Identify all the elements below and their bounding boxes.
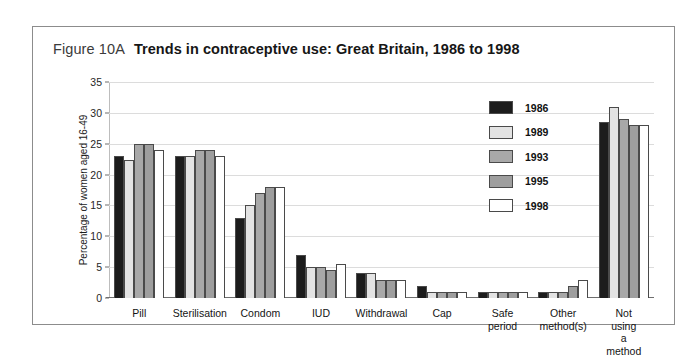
bar[interactable]	[639, 125, 649, 298]
bar[interactable]	[578, 280, 588, 299]
y-axis-tick-label: 5	[96, 261, 102, 273]
bar[interactable]	[619, 119, 629, 298]
bar[interactable]	[498, 292, 508, 298]
bar[interactable]	[548, 292, 558, 298]
bar[interactable]	[478, 292, 488, 298]
x-axis-category-label: Pill	[132, 307, 146, 320]
bar[interactable]	[195, 150, 205, 298]
legend-swatch	[489, 126, 513, 139]
chart-title: Trends in contraceptive use: Great Brita…	[134, 41, 520, 57]
y-axis-tick-label: 15	[90, 199, 102, 211]
bar[interactable]	[457, 292, 467, 298]
plot-area: 05101520253035 PillSterilisationCondomIU…	[109, 82, 654, 298]
bar[interactable]	[447, 292, 457, 298]
x-axis-category-label: Cap	[432, 307, 451, 320]
bar-group: Withdrawal	[351, 82, 412, 298]
legend-label: 1995	[525, 175, 548, 187]
legend-label: 1989	[525, 126, 548, 138]
legend-item[interactable]: 1993	[489, 150, 548, 163]
bar[interactable]	[356, 273, 366, 298]
bar[interactable]	[376, 280, 386, 299]
bar[interactable]	[296, 255, 306, 298]
bar-group: Not using a method	[593, 82, 654, 298]
y-axis-title: Percentage of women aged 16-49	[75, 82, 91, 298]
figure-frame: Figure 10A Trends in contraceptive use: …	[32, 26, 675, 325]
bar[interactable]	[316, 267, 326, 298]
bar-group: Sterilisation	[170, 82, 231, 298]
bar[interactable]	[366, 273, 376, 298]
bar[interactable]	[326, 270, 336, 298]
bar-group: Condom	[230, 82, 291, 298]
bar[interactable]	[185, 156, 195, 298]
chart-legend: 19861989199319951998	[489, 101, 548, 212]
bar[interactable]	[144, 144, 154, 298]
bar[interactable]	[417, 286, 427, 298]
bar[interactable]	[134, 144, 144, 298]
bar[interactable]	[154, 150, 164, 298]
bar[interactable]	[629, 125, 639, 298]
x-axis-category-label: Safe period	[487, 307, 517, 332]
bar[interactable]	[538, 292, 548, 298]
bar[interactable]	[568, 286, 578, 298]
legend-swatch	[489, 101, 513, 114]
bar[interactable]	[255, 193, 265, 298]
x-axis-category-label: IUD	[312, 307, 330, 320]
legend-item[interactable]: 1986	[489, 101, 548, 114]
legend-label: 1998	[525, 200, 548, 212]
bar[interactable]	[215, 156, 225, 298]
legend-swatch	[489, 199, 513, 212]
bar[interactable]	[609, 107, 619, 298]
bar[interactable]	[265, 187, 275, 298]
y-axis-tick-label: 35	[90, 76, 102, 88]
x-axis-category-label: Withdrawal	[356, 307, 408, 320]
legend-label: 1986	[525, 102, 548, 114]
x-axis-category-label: Other method(s)	[540, 307, 587, 332]
bar[interactable]	[235, 218, 245, 298]
legend-item[interactable]: 1995	[489, 175, 548, 188]
bar-group: Pill	[109, 82, 170, 298]
bar[interactable]	[508, 292, 518, 298]
y-axis-tick-label: 30	[90, 107, 102, 119]
bar[interactable]	[427, 292, 437, 298]
bar[interactable]	[437, 292, 447, 298]
bar[interactable]	[518, 292, 528, 298]
bar[interactable]	[386, 280, 396, 299]
x-axis-category-label: Condom	[241, 307, 281, 320]
bar[interactable]	[558, 292, 568, 298]
figure-heading: Figure 10A Trends in contraceptive use: …	[53, 41, 520, 57]
bar[interactable]	[205, 150, 215, 298]
y-axis-tick-label: 20	[90, 169, 102, 181]
figure-number: Figure 10A	[53, 41, 125, 57]
bar-group: Cap	[412, 82, 473, 298]
bar[interactable]	[245, 205, 255, 298]
bar-group: IUD	[291, 82, 352, 298]
bar[interactable]	[396, 280, 406, 299]
legend-item[interactable]: 1989	[489, 126, 548, 139]
legend-swatch	[489, 150, 513, 163]
bar[interactable]	[175, 156, 185, 298]
bar[interactable]	[488, 292, 498, 298]
legend-label: 1993	[525, 151, 548, 163]
legend-swatch	[489, 175, 513, 188]
y-axis-tick-label: 10	[90, 230, 102, 242]
bar[interactable]	[306, 267, 316, 298]
y-axis-tick-label: 0	[96, 292, 102, 304]
y-axis-tick-label: 25	[90, 138, 102, 150]
x-axis-category-label: Not using a method	[606, 307, 641, 357]
x-axis-category-label: Sterilisation	[173, 307, 227, 320]
bar[interactable]	[114, 156, 124, 298]
bar[interactable]	[124, 160, 134, 298]
bar[interactable]	[599, 122, 609, 298]
legend-item[interactable]: 1998	[489, 199, 548, 212]
bar[interactable]	[336, 264, 346, 298]
bar[interactable]	[275, 187, 285, 298]
